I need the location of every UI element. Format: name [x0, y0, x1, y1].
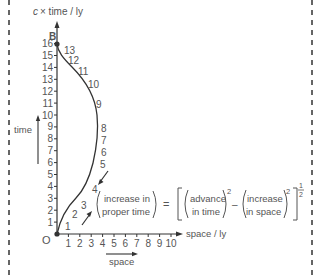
y-tick-label: 9 [47, 121, 53, 132]
y-tick-label: 6 [47, 157, 53, 168]
proper-time-mark: 4 [92, 184, 98, 195]
y-axis-arrowhead-icon [55, 21, 60, 28]
proper-time-mark: 11 [78, 66, 89, 77]
proper-time-mark: 1 [65, 221, 71, 232]
x-tick-label: 10 [165, 238, 177, 249]
y-tick-label: 14 [42, 62, 54, 73]
proper-time-mark: 10 [88, 79, 100, 90]
y-tick-label: 4 [47, 181, 53, 192]
proper-time-mark: 12 [68, 55, 80, 66]
proper-time-mark: 8 [101, 123, 107, 134]
proper-time-mark: 3 [81, 200, 87, 211]
y-tick-label: 7 [47, 145, 53, 156]
space-arrow-label: space [109, 256, 134, 267]
svg-text:increase: increase [247, 193, 283, 204]
x-tick-label: 5 [111, 238, 117, 249]
svg-text:2: 2 [299, 191, 303, 198]
eq-lhs-bottom: proper time [102, 206, 150, 217]
x-tick-label: 1 [66, 238, 72, 249]
y-tick-label: 13 [42, 74, 54, 85]
proper-time-mark: 7 [101, 135, 107, 146]
spacetime-diagram: 12345678910111213141516 12345678910 1234… [0, 0, 317, 279]
y-ticks: 12345678910111213141516 [42, 38, 57, 228]
pointer-arrowhead-lower-icon [87, 211, 93, 217]
y-axis-label-c: c [33, 6, 38, 17]
eq-lhs-top: increase in [104, 193, 150, 204]
origin-dot [54, 231, 59, 236]
y-tick-label: 3 [47, 193, 53, 204]
event-b-dot [54, 41, 59, 46]
time-arrowhead-icon [36, 115, 40, 121]
time-arrow-label: time [14, 124, 32, 135]
pointer-arrowhead-upper-icon [98, 179, 104, 185]
proper-time-mark: 9 [96, 99, 102, 110]
event-b-label: B [49, 31, 56, 42]
y-tick-label: 1 [47, 217, 53, 228]
x-tick-label: 7 [134, 238, 140, 249]
x-tick-label: 4 [100, 238, 106, 249]
proper-time-mark: 5 [100, 159, 106, 170]
x-axis-arrowhead-icon [176, 232, 183, 237]
svg-text:in time: in time [192, 206, 220, 217]
svg-text:=: = [163, 198, 169, 210]
y-tick-label: 11 [43, 98, 54, 109]
y-tick-label: 15 [42, 50, 54, 61]
y-tick-label: 2 [47, 205, 53, 216]
svg-text:in space: in space [246, 206, 281, 217]
svg-text:2: 2 [227, 187, 231, 196]
y-tick-label: 12 [42, 86, 54, 97]
y-tick-label: 8 [47, 133, 53, 144]
x-tick-label: 9 [157, 238, 163, 249]
y-tick-label: 5 [47, 169, 53, 180]
x-tick-label: 6 [123, 238, 129, 249]
x-ticks: 12345678910 [66, 234, 177, 249]
x-tick-label: 2 [77, 238, 83, 249]
x-tick-label: 3 [88, 238, 94, 249]
svg-text:advance: advance [190, 193, 226, 204]
proper-time-mark: 13 [64, 45, 76, 56]
proper-time-equation: increase in proper time = advance in tim… [97, 182, 304, 220]
proper-time-mark: 2 [72, 209, 78, 220]
svg-text:1: 1 [299, 182, 303, 189]
y-tick-label: 10 [42, 110, 54, 121]
svg-text:2: 2 [286, 187, 290, 196]
x-tick-label: 8 [145, 238, 151, 249]
proper-time-mark: 6 [101, 147, 107, 158]
y-axis-label: × time / ly [40, 6, 83, 17]
origin-label: O [42, 234, 51, 246]
x-axis-label: space / ly [186, 228, 226, 239]
svg-text:–: – [232, 199, 238, 210]
